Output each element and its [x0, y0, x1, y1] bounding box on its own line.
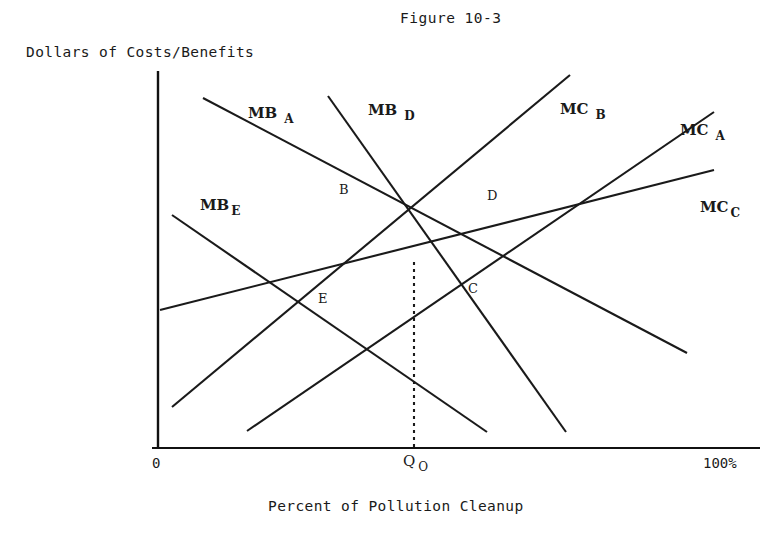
point-label-b: B — [339, 182, 349, 197]
curve-label-mb-e: MBE — [200, 196, 238, 214]
x-axis-origin-tick: 0 — [152, 455, 160, 471]
curve-label-mb-d-main: MB — [368, 101, 397, 119]
curve-label-mc-a-main: MC — [680, 121, 709, 139]
curve-label-mc-c: MCC — [700, 198, 738, 216]
curve-label-mb-a-main: MB — [248, 104, 277, 122]
curve-label-mb-d: MBD — [368, 101, 408, 119]
curve-label-mb-e-sub: E — [231, 204, 240, 218]
plot-area — [0, 0, 775, 534]
curve-mb-d — [328, 96, 566, 432]
equilibrium-quantity-label: QO — [403, 452, 425, 470]
curve-label-mb-a-sub: A — [284, 112, 293, 126]
curve-label-mc-b-main: MC — [560, 100, 589, 118]
curve-label-mb-e-main: MB — [200, 196, 229, 214]
point-label-e: E — [318, 291, 328, 306]
curve-mb-a — [203, 98, 687, 353]
curve-mc-b — [172, 75, 570, 407]
x-axis-max-tick: 100% — [703, 455, 737, 471]
curve-label-mc-b-sub: B — [596, 108, 606, 122]
curve-label-mb-d-sub: D — [404, 109, 414, 123]
curve-label-mc-c-sub: C — [731, 206, 741, 220]
equilibrium-quantity-main: Q — [403, 452, 415, 470]
curve-mb-e — [172, 215, 487, 432]
curve-label-mc-a: MCA — [680, 121, 718, 139]
point-label-c: C — [468, 281, 478, 296]
curve-mc-a — [247, 112, 714, 431]
economics-figure: Figure 10-3 Dollars of Costs/Benefits MB… — [0, 0, 775, 534]
curve-label-mc-a-sub: A — [716, 129, 725, 143]
equilibrium-quantity-sub: O — [418, 460, 428, 474]
curve-mc-c — [160, 170, 714, 310]
point-label-d: D — [487, 188, 497, 203]
curve-label-mc-c-main: MC — [700, 198, 729, 216]
curve-label-mb-a: MBA — [248, 104, 287, 122]
curve-label-mc-b: MCB — [560, 100, 599, 118]
x-axis-title: Percent of Pollution Cleanup — [268, 498, 524, 514]
